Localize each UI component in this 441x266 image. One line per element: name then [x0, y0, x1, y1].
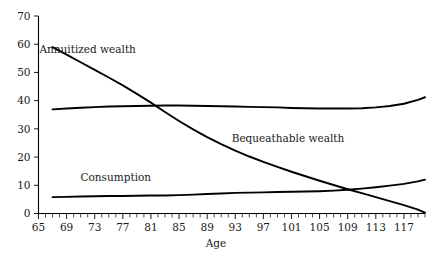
x-axis-tick-labels: 656973778185899397101105109113117 [32, 221, 414, 233]
series-label-1: Bequeathable wealth [232, 132, 345, 144]
x-tick-label: 69 [60, 221, 73, 233]
x-tick-label: 97 [257, 221, 270, 233]
y-tick-label: 40 [17, 94, 30, 106]
chart-figure: 010203040506070 656973778185899397101105… [0, 0, 441, 266]
x-tick-label: 85 [172, 221, 185, 233]
x-tick-label: 93 [229, 221, 242, 233]
y-tick-label: 10 [17, 179, 30, 191]
y-tick-label: 20 [17, 151, 30, 163]
y-tick-label: 0 [24, 207, 31, 219]
x-tick-label: 73 [88, 221, 101, 233]
x-tick-label: 113 [366, 221, 386, 233]
x-tick-label: 77 [116, 221, 129, 233]
series-label-0: Annuitized wealth [38, 43, 136, 55]
x-axis-ticks [39, 214, 426, 220]
y-tick-label: 30 [17, 123, 30, 135]
series-label-2: Consumption [80, 171, 151, 183]
y-tick-label: 50 [17, 66, 30, 78]
x-tick-label: 89 [200, 221, 213, 233]
x-tick-label: 117 [394, 221, 414, 233]
y-tick-label: 70 [17, 10, 30, 22]
x-tick-label: 101 [281, 221, 301, 233]
data-series-curves [53, 47, 425, 213]
x-tick-label: 105 [310, 221, 330, 233]
x-tick-label: 109 [338, 221, 358, 233]
y-axis-ticks [34, 16, 39, 214]
x-tick-label: 81 [144, 221, 157, 233]
x-axis-title: Age [205, 237, 227, 249]
x-tick-label: 65 [32, 221, 45, 233]
y-axis-tick-labels: 010203040506070 [17, 10, 30, 220]
y-tick-label: 60 [17, 38, 30, 50]
line-chart-svg: 010203040506070 656973778185899397101105… [0, 0, 441, 266]
series-curve-1 [53, 97, 425, 109]
